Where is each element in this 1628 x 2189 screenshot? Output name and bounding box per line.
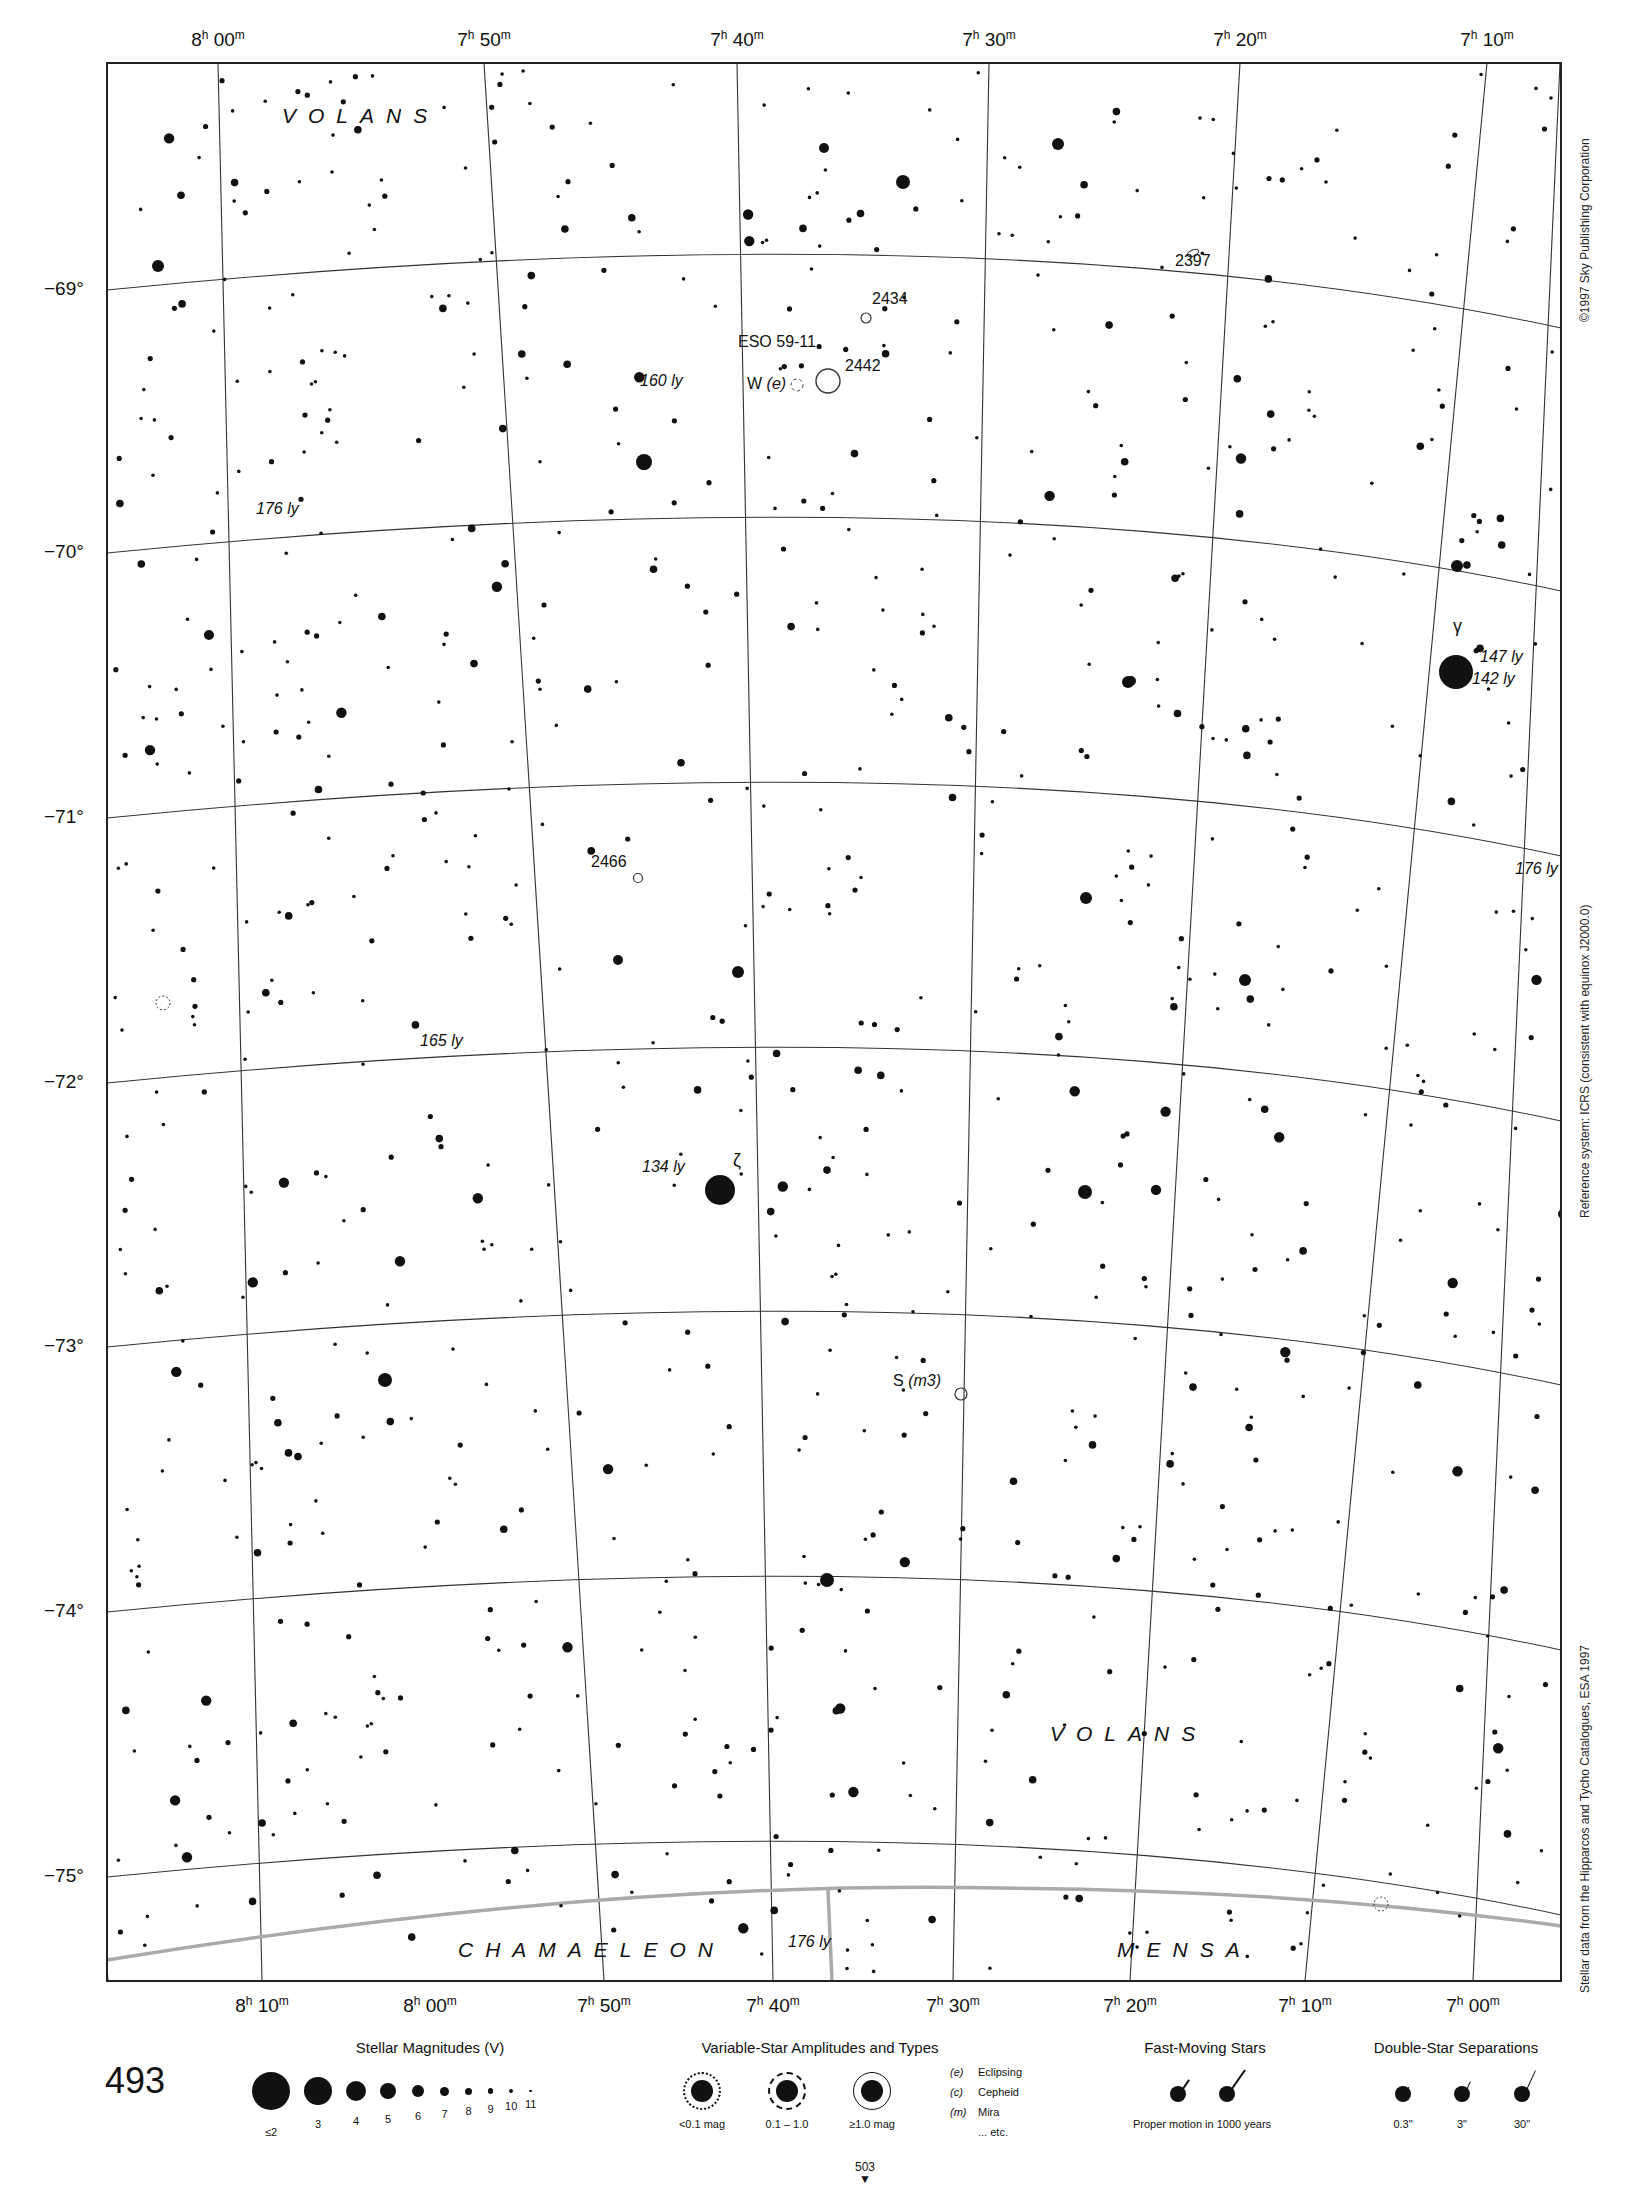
ra-label-bottom: 7h 20m [1103, 1994, 1157, 2017]
star-label: 165 ly [420, 1032, 463, 1050]
magnitude-dot-icon [488, 2088, 493, 2093]
legend-variables-title: Variable-Star Amplitudes and Types [701, 2039, 938, 2056]
star-label: ζ [733, 1150, 741, 1171]
magnitude-label: 9 [488, 2103, 494, 2115]
reference-system-text: Reference system: ICRS (consistent with … [1578, 905, 1592, 1218]
legend-fast-moving-title: Fast-Moving Stars [1144, 2039, 1266, 2056]
ra-label-bottom: 7h 10m [1278, 1994, 1332, 2017]
continuation-page-link[interactable]: 503 ▼ [850, 2160, 880, 2184]
star-label: 176 ly [256, 500, 299, 518]
variable-type-item: (m)Mira [950, 2106, 999, 2118]
down-arrow-icon: ▼ [850, 2174, 880, 2184]
star-dot-icon [776, 2080, 798, 2102]
data-source-text: Stellar data from the Hipparcos and Tych… [1578, 1645, 1592, 1993]
star-label: γ [1453, 616, 1462, 637]
proper-motion-caption: Proper motion in 1000 years [1133, 2118, 1271, 2130]
star-label: 176 ly [1515, 860, 1558, 878]
magnitude-label: 4 [353, 2115, 359, 2127]
chart-frame [106, 62, 1562, 1982]
magnitude-label: 3 [315, 2118, 321, 2130]
magnitude-dot-icon [380, 2083, 396, 2099]
star-label: 160 ly [640, 372, 683, 390]
magnitude-dot-icon [440, 2087, 449, 2096]
variable-type-item: (e)Eclipsing [950, 2066, 1022, 2078]
magnitude-label: 6 [415, 2110, 421, 2122]
amplitude-label: ≥1.0 mag [849, 2118, 895, 2130]
legend-magnitudes-title: Stellar Magnitudes (V) [356, 2039, 504, 2056]
ra-label-bottom: 8h 00m [403, 1994, 457, 2017]
page-number: 493 [105, 2060, 165, 2102]
amplitude-label: <0.1 mag [679, 2118, 725, 2130]
star-label: 134 ly [642, 1158, 685, 1176]
ra-label-bottom: 7h 00m [1446, 1994, 1500, 2017]
star-dot-icon [861, 2080, 883, 2102]
constellation-label: VOLANS [282, 104, 439, 128]
magnitude-dot-icon [465, 2088, 472, 2095]
ra-label-bottom: 7h 50m [577, 1994, 631, 2017]
magnitude-dot-icon [252, 2072, 290, 2110]
separation-label: 30" [1514, 2118, 1530, 2130]
constellation-label: VOLANS [1050, 1722, 1207, 1746]
variable-type-item: ... etc. [950, 2126, 1008, 2138]
constellation-label: MENSA [1117, 1938, 1252, 1962]
magnitude-label: ≤2 [265, 2126, 277, 2138]
ra-label-bottom: 7h 30m [926, 1994, 980, 2017]
variable-star-label: S (m3) [893, 1372, 941, 1390]
magnitude-dot-icon [412, 2085, 424, 2097]
star-label: 176 ly [788, 1933, 831, 1951]
amplitude-label: 0.1 – 1.0 [766, 2118, 809, 2130]
magnitude-label: 7 [441, 2108, 447, 2120]
star-label: 147 ly [1480, 648, 1523, 666]
magnitude-dot-icon [346, 2081, 366, 2101]
variable-star-label: W (e) [747, 375, 786, 393]
deep-sky-object-label: 2434 [872, 290, 908, 308]
ra-label-bottom: 8h 10m [235, 1994, 289, 2017]
ra-label-bottom: 7h 40m [746, 1994, 800, 2017]
variable-type-item: (c)Cepheid [950, 2086, 1019, 2098]
magnitude-label: 8 [465, 2105, 471, 2117]
separation-label: 3" [1457, 2118, 1467, 2130]
copyright-text: ©1997 Sky Publishing Corporation [1578, 138, 1592, 322]
deep-sky-object-label: ESO 59-11 [738, 333, 816, 351]
legend-double-stars-title: Double-Star Separations [1374, 2039, 1538, 2056]
deep-sky-object-label: 2442 [845, 357, 881, 375]
deep-sky-object-label: 2397 [1175, 252, 1211, 270]
star-label: 142 ly [1472, 670, 1515, 688]
star-dot-icon [691, 2080, 713, 2102]
magnitude-label: 10 [505, 2100, 517, 2112]
magnitude-label: 5 [385, 2113, 391, 2125]
constellation-label: CHAMAELEON [458, 1938, 725, 1962]
deep-sky-object-label: 2466 [591, 853, 627, 871]
separation-label: 0.3" [1393, 2118, 1412, 2130]
magnitude-dot-icon [304, 2077, 332, 2105]
magnitude-label: 11 [525, 2098, 536, 2110]
